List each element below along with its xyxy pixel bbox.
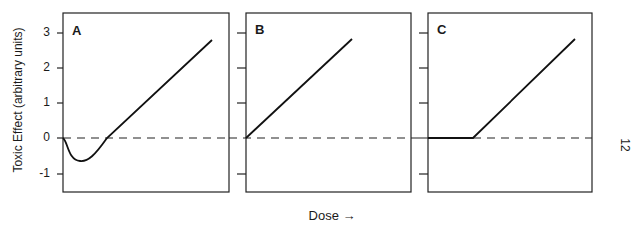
ytick-label-0: 0 <box>30 130 50 144</box>
panel-c <box>411 13 592 192</box>
panel-a-label: A <box>72 23 81 38</box>
panel-c-label: C <box>437 22 446 37</box>
panel-a-curve <box>63 40 212 161</box>
ytick-label-neg1: -1 <box>30 166 50 180</box>
panel-a-yticks <box>57 33 63 174</box>
panel-c-curve <box>428 39 575 138</box>
panel-a <box>57 13 229 192</box>
figure-canvas <box>0 0 641 232</box>
panel-b-yticks <box>237 33 246 174</box>
panel-b-curve <box>246 39 352 138</box>
panel-c-yticks <box>419 33 428 174</box>
ytick-label-2: 2 <box>30 60 50 74</box>
page-number: 12 <box>618 138 632 151</box>
ytick-label-1: 1 <box>30 95 50 109</box>
panel-b-label: B <box>255 22 264 37</box>
ytick-label-3: 3 <box>30 25 50 39</box>
panel-b-frame <box>246 13 411 192</box>
y-axis-label: Toxic Effect (arbitrary units) <box>11 20 25 180</box>
x-axis-label: Dose → <box>282 208 382 223</box>
panel-b <box>229 13 411 192</box>
